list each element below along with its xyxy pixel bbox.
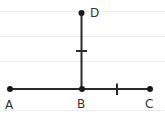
- geometry-diagram: A B C D: [0, 0, 165, 120]
- label-d: D: [90, 6, 99, 20]
- point-a: [7, 86, 13, 92]
- point-c: [147, 86, 153, 92]
- label-c: C: [145, 97, 153, 111]
- label-b: B: [77, 97, 85, 111]
- point-d: [79, 10, 85, 16]
- label-a: A: [5, 98, 14, 112]
- point-b: [79, 86, 85, 92]
